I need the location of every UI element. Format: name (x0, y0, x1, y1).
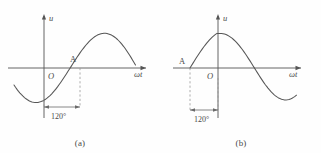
horizontal-axis-a (8, 66, 146, 70)
horizontal-axis-label-b: ωt (289, 69, 298, 79)
horizontal-axis-label-a: ωt (134, 69, 143, 79)
waveform-curve-b (190, 33, 297, 100)
angle-label-a: 120° (51, 112, 66, 121)
point-a-label-a: A (70, 54, 77, 64)
panel-a-caption: (a) (0, 138, 160, 148)
angle-dimension-a (44, 105, 80, 109)
origin-label-a: O (48, 71, 54, 81)
panel-b-caption: (b) (161, 138, 321, 148)
angle-dimension-b (190, 108, 218, 112)
point-a-label-b: A (179, 56, 186, 66)
angle-label-b: 120° (194, 115, 209, 124)
waveform-figure: u ωt O A 120° (a) (0, 0, 321, 153)
panel-b: u ωt O A 120° (b) (161, 0, 321, 153)
vertical-axis-label-b: u (223, 13, 227, 23)
horizontal-axis-b (173, 66, 301, 70)
panel-b-plot: u ωt O A 120° (161, 0, 321, 153)
vertical-axis-a (42, 14, 46, 118)
panel-a-plot: u ωt O A 120° (0, 0, 160, 153)
vertical-axis-label-a: u (49, 13, 53, 23)
panel-a: u ωt O A 120° (a) (0, 0, 160, 153)
vertical-axis-b (216, 14, 220, 118)
origin-label-b: O (207, 71, 213, 81)
